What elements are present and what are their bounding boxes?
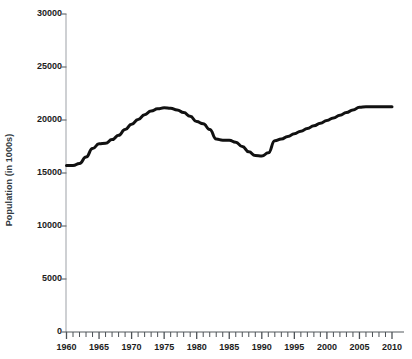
plot-area <box>0 0 412 359</box>
axis-lines <box>66 14 404 332</box>
population-series-line <box>67 107 393 166</box>
population-line-chart: Population (in 1000s) 300002500020000150… <box>0 0 412 359</box>
x-minor-tick-marks <box>67 332 393 339</box>
